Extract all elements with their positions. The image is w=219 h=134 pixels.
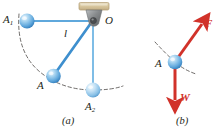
ceiling-bracket xyxy=(79,3,109,11)
label-bob-a2-text: A xyxy=(85,100,92,112)
label-bob-a1-text: A xyxy=(3,13,10,25)
label-bob-a1: A1 xyxy=(3,14,13,26)
label-bob-a2-sub: 2 xyxy=(92,106,95,113)
bob-b xyxy=(168,55,183,70)
caption-panel-a: (a) xyxy=(62,116,74,127)
panel-b-group xyxy=(155,24,202,100)
label-bob-a2: A2 xyxy=(85,101,95,113)
label-bob-a: A xyxy=(37,80,44,91)
label-force-f: F xyxy=(205,18,212,29)
rod-pivot-to-a xyxy=(54,23,91,75)
caption-panel-b: (b) xyxy=(176,116,188,127)
pivot-block xyxy=(86,10,102,26)
bob-a xyxy=(46,69,61,84)
force-arrow-tension xyxy=(176,24,203,61)
label-force-w: W xyxy=(180,92,190,103)
label-bob-a1-sub: 1 xyxy=(10,19,13,26)
label-length-l: l xyxy=(64,28,67,39)
label-pivot-o: O xyxy=(105,15,113,26)
physics-figure: A1 O l A A2 (a) A F W (b) xyxy=(0,0,219,134)
bob-a1 xyxy=(19,13,34,28)
label-bob-b: A xyxy=(155,58,162,69)
bob-a2 xyxy=(86,83,101,98)
